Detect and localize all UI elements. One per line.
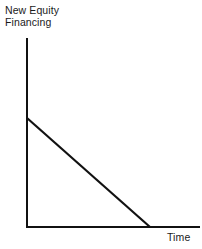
equity-financing-chart: New Equity Financing Time [0, 0, 202, 249]
x-axis-label: Time [167, 231, 190, 243]
equity-financing-trend-line [27, 118, 150, 227]
axes-group [26, 38, 200, 227]
series-group [27, 118, 150, 227]
y-axis-label: New Equity Financing [5, 4, 59, 28]
plot-area [0, 0, 202, 249]
